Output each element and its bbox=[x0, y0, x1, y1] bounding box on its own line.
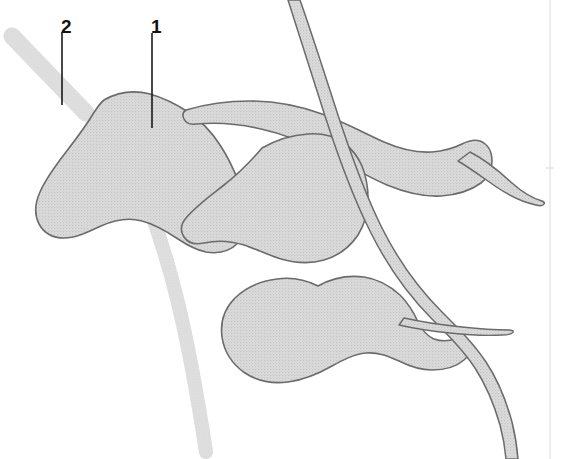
figure-container: 1 2 bbox=[0, 0, 562, 459]
page-edge-rule bbox=[546, 0, 554, 459]
callout-label-1: 1 bbox=[151, 17, 162, 36]
callout-label-2: 2 bbox=[61, 17, 72, 36]
vessel-band-upper-left-tone bbox=[12, 36, 86, 113]
anatomical-drawing-canvas bbox=[0, 0, 562, 459]
